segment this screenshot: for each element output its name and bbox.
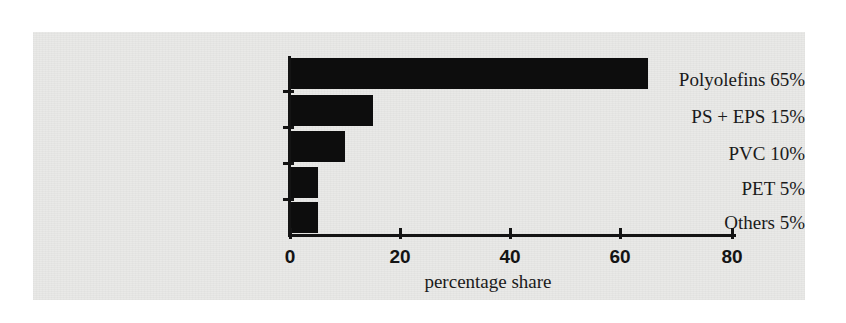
y-tick-mark-2 <box>283 126 294 129</box>
x-axis-line <box>288 234 736 237</box>
bar-pet <box>290 167 318 198</box>
x-tick-mark-40 <box>509 228 512 239</box>
x-tick-mark-60 <box>619 228 622 239</box>
y-tick-mark-4 <box>283 198 294 201</box>
x-axis-title: percentage share <box>388 272 588 291</box>
y-tick-mark-3 <box>283 162 294 165</box>
y-tick-mark-1 <box>283 90 294 93</box>
x-tick-label-40: 40 <box>490 247 530 266</box>
x-tick-label-80: 80 <box>712 247 752 266</box>
x-tick-mark-80 <box>731 228 734 239</box>
y-tick-label-others: Others 5% <box>553 213 805 232</box>
figure-canvas: Polyolefins 65% PS + EPS 15% PVC 10% PET… <box>0 0 846 323</box>
chart-panel: Polyolefins 65% PS + EPS 15% PVC 10% PET… <box>33 32 805 300</box>
y-axis-line <box>288 56 291 236</box>
bar-others <box>290 202 318 233</box>
y-tick-label-pet: PET 5% <box>553 179 805 198</box>
bar-pvc <box>290 131 345 162</box>
x-tick-label-0: 0 <box>270 247 310 266</box>
bar-polyolefins <box>290 58 648 89</box>
y-tick-label-ps-eps: PS + EPS 15% <box>553 107 805 126</box>
x-tick-mark-0 <box>289 228 292 239</box>
y-tick-label-pvc: PVC 10% <box>553 144 805 163</box>
bar-ps-eps <box>290 95 373 126</box>
x-tick-label-20: 20 <box>380 247 420 266</box>
plot-area: Polyolefins 65% PS + EPS 15% PVC 10% PET… <box>33 32 805 300</box>
x-tick-mark-20 <box>399 228 402 239</box>
x-tick-label-60: 60 <box>600 247 640 266</box>
